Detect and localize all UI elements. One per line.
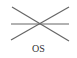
os-symbol-icon xyxy=(0,0,77,46)
symbol-label: OS xyxy=(0,43,77,55)
